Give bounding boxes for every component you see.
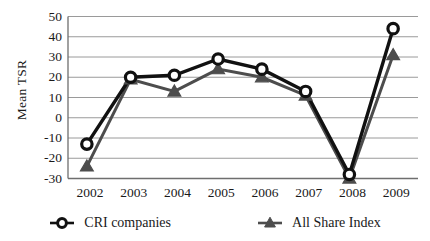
x-tick-label: 2005	[208, 185, 235, 201]
series-layer	[80, 23, 399, 183]
data-point-marker	[125, 72, 135, 82]
y-tick-label: 10	[14, 90, 62, 106]
plot-area	[0, 0, 430, 241]
chart-legend: CRI companiesAll Share Index	[0, 207, 430, 239]
x-tick-label: 2009	[383, 185, 410, 201]
y-tick-label: 0	[14, 110, 62, 126]
triangle-marker-icon	[257, 215, 283, 231]
chart-figure: Mean TSR 50403020100-10-20-30 2002200320…	[0, 0, 430, 241]
legend-label: All Share Index	[292, 215, 381, 231]
y-tick-label: -10	[14, 130, 62, 146]
data-point-marker	[257, 64, 267, 74]
circle-marker-icon	[49, 215, 75, 231]
data-point-marker	[80, 160, 93, 171]
y-tick-label: 50	[14, 9, 62, 25]
data-point-marker	[300, 86, 310, 96]
y-tick-label: -30	[14, 171, 62, 187]
x-tick-label: 2007	[295, 185, 322, 201]
y-tick-label: 30	[14, 49, 62, 65]
y-tick-label: 40	[14, 29, 62, 45]
data-point-marker	[344, 169, 354, 179]
data-point-marker	[388, 23, 398, 33]
y-tick-label: -20	[14, 150, 62, 166]
legend-entry[interactable]: All Share Index	[257, 215, 381, 231]
y-tick-label: 20	[14, 69, 62, 85]
x-tick-label: 2002	[76, 185, 103, 201]
data-point-marker	[213, 54, 223, 64]
legend-label: CRI companies	[84, 215, 171, 231]
data-point-marker	[82, 139, 92, 149]
data-point-marker	[387, 49, 400, 60]
series-line	[87, 29, 393, 175]
x-tick-label: 2006	[251, 185, 278, 201]
legend-entry[interactable]: CRI companies	[49, 215, 171, 231]
x-tick-label: 2008	[339, 185, 366, 201]
x-tick-label: 2004	[164, 185, 191, 201]
data-point-marker	[169, 70, 179, 80]
x-tick-label: 2003	[120, 185, 147, 201]
